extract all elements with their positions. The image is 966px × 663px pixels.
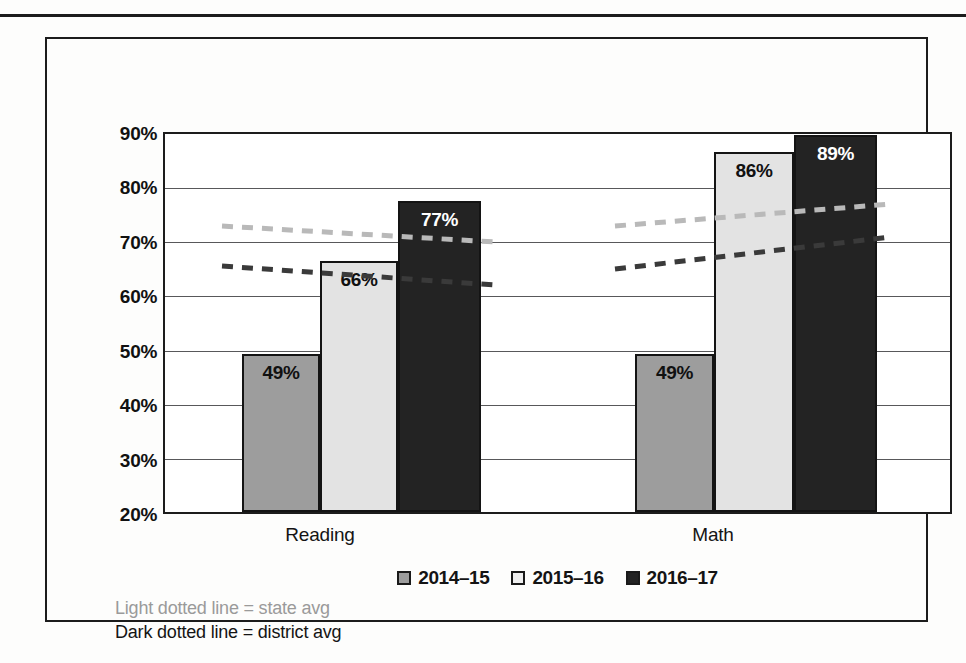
bar-value-label: 77% xyxy=(400,209,479,231)
legend-label: 2016–17 xyxy=(647,567,718,589)
y-tick-50: 50% xyxy=(91,342,157,361)
bar-reading-2016-17[interactable]: 77% xyxy=(398,201,481,512)
legend-item-2016-17[interactable]: 2016–17 xyxy=(626,567,718,589)
y-tick-40: 40% xyxy=(91,396,157,415)
y-tick-30: 30% xyxy=(91,451,157,470)
y-tick-80: 80% xyxy=(91,178,157,197)
bar-value-label: 49% xyxy=(637,362,712,384)
page-top-rule xyxy=(0,14,966,17)
legend-label: 2015–16 xyxy=(532,567,603,589)
bar-value-label: 89% xyxy=(796,143,875,165)
bar-math-2015-16[interactable]: 86% xyxy=(714,152,794,512)
category-label-math: Math xyxy=(633,524,793,546)
gray-swatch-icon xyxy=(397,571,411,585)
footnote-district-avg: Dark dotted line = district avg xyxy=(115,620,341,644)
y-axis-tick-labels: 90% 80% 70% 60% 50% 40% 30% 20% xyxy=(85,132,157,514)
dark-swatch-icon xyxy=(626,571,640,585)
bar-reading-2015-16[interactable]: 66% xyxy=(320,261,398,512)
legend-item-2014-15[interactable]: 2014–15 xyxy=(397,567,489,589)
chart-figure-box: 90% 80% 70% 60% 50% 40% 30% 20% 49% 66% xyxy=(45,37,928,622)
y-tick-60: 60% xyxy=(91,287,157,306)
legend-label: 2014–15 xyxy=(418,567,489,589)
figure-page: 90% 80% 70% 60% 50% 40% 30% 20% 49% 66% xyxy=(0,0,966,663)
bar-value-label: 49% xyxy=(244,362,318,384)
footnote-state-avg: Light dotted line = state avg xyxy=(115,596,341,620)
chart-footnotes: Light dotted line = state avg Dark dotte… xyxy=(115,596,341,644)
y-tick-20: 20% xyxy=(91,505,157,524)
category-label-reading: Reading xyxy=(240,524,400,546)
bar-math-2014-15[interactable]: 49% xyxy=(635,354,714,512)
bar-value-label: 66% xyxy=(322,269,396,291)
y-tick-70: 70% xyxy=(91,233,157,252)
plot-area: 49% 66% 77% 49% 86% 89% xyxy=(163,132,952,514)
legend-item-2015-16[interactable]: 2015–16 xyxy=(511,567,603,589)
bar-reading-2014-15[interactable]: 49% xyxy=(242,354,320,512)
bar-value-label: 86% xyxy=(716,160,792,182)
chart-legend: 2014–15 2015–16 2016–17 xyxy=(163,567,952,589)
bar-math-2016-17[interactable]: 89% xyxy=(794,135,877,512)
light-swatch-icon xyxy=(511,571,525,585)
y-tick-90: 90% xyxy=(91,124,157,143)
